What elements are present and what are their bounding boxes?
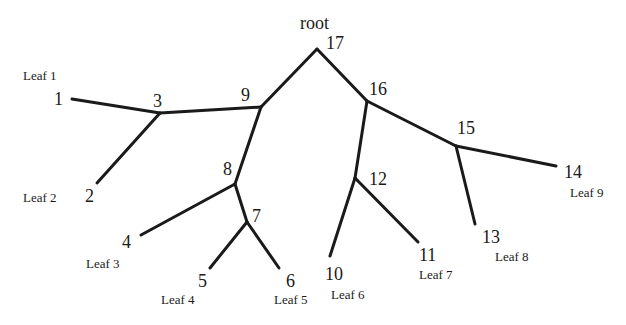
edge-15-14 <box>456 146 556 166</box>
node-1: 1 <box>54 90 63 108</box>
node-16: 16 <box>369 80 387 98</box>
edge-7-6 <box>247 222 279 268</box>
node-2: 2 <box>85 187 94 205</box>
node-13: 13 <box>482 228 500 246</box>
leaf-label-4: Leaf 4 <box>161 293 195 306</box>
edge-9-3 <box>160 107 261 113</box>
edge-15-13 <box>456 146 475 224</box>
node-11: 11 <box>419 246 436 264</box>
edge-8-7 <box>235 184 247 222</box>
leaf-label-8: Leaf 8 <box>495 250 529 263</box>
edge-16-15 <box>367 101 456 146</box>
leaf-label-7: Leaf 7 <box>419 268 453 281</box>
root-label: root <box>300 14 329 32</box>
tree-edges <box>0 0 626 325</box>
node-3: 3 <box>153 92 162 110</box>
node-8: 8 <box>223 160 232 178</box>
leaf-label-6: Leaf 6 <box>331 288 365 301</box>
edge-7-5 <box>210 222 247 268</box>
node-9: 9 <box>241 86 250 104</box>
edge-17-16 <box>317 49 367 101</box>
edge-3-1 <box>72 99 160 113</box>
node-7: 7 <box>252 207 261 225</box>
edge-17-9 <box>261 49 317 107</box>
edge-8-4 <box>141 184 235 235</box>
leaf-label-5: Leaf 5 <box>274 293 308 306</box>
leaf-label-2: Leaf 2 <box>23 191 57 204</box>
edge-12-10 <box>330 178 355 256</box>
edge-16-12 <box>355 101 367 178</box>
node-5: 5 <box>198 272 207 290</box>
node-15: 15 <box>457 119 475 137</box>
edge-3-2 <box>97 113 160 183</box>
node-12: 12 <box>369 170 387 188</box>
leaf-label-9: Leaf 9 <box>570 186 604 199</box>
edge-9-8 <box>235 107 261 184</box>
leaf-label-1: Leaf 1 <box>23 69 57 82</box>
node-6: 6 <box>286 272 295 290</box>
node-4: 4 <box>122 233 131 251</box>
node-10: 10 <box>325 265 343 283</box>
leaf-label-3: Leaf 3 <box>86 257 120 270</box>
node-14: 14 <box>564 163 582 181</box>
node-17: 17 <box>326 34 344 52</box>
